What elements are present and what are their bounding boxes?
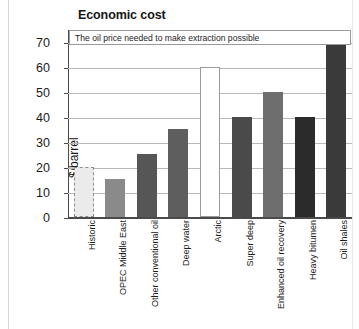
x-label-historic: Historic xyxy=(88,220,98,325)
x-label-heavy-bitumen: Heavy bitumen xyxy=(309,220,319,325)
economic-cost-chart-figure: Economic cost 010203040506070 The oil pr… xyxy=(0,0,359,329)
y-tick-70 xyxy=(64,43,68,44)
y-tick-label-0: 0 xyxy=(43,211,50,225)
bar-heavy-bitumen xyxy=(295,117,315,217)
y-tick-label-20: 20 xyxy=(36,161,50,175)
bar-historic xyxy=(74,167,94,217)
y-tick-10 xyxy=(64,193,68,194)
bar-other-conventional-oil xyxy=(137,154,157,217)
page-right-rule xyxy=(352,0,353,329)
y-tick-50 xyxy=(64,93,68,94)
x-label-opec-middle-east: OPEC Middle East xyxy=(119,220,129,325)
y-tick-label-70: 70 xyxy=(36,36,50,50)
x-label-deep-water: Deep water xyxy=(182,220,192,325)
plot-area: 010203040506070 The oil price needed to … xyxy=(68,30,352,218)
bar-super-deep xyxy=(232,117,252,217)
x-label-super-deep: Super deep xyxy=(246,220,256,325)
page-left-rule xyxy=(8,0,9,329)
y-tick-60 xyxy=(64,68,68,69)
subtitle-callout-box: The oil price needed to make extraction … xyxy=(69,30,351,45)
y-tick-label-50: 50 xyxy=(36,86,50,100)
x-axis-labels-group: HistoricOPEC Middle EastOther convention… xyxy=(68,220,352,329)
bar-oil-shales xyxy=(326,42,346,217)
chart-subtitle: The oil price needed to make extraction … xyxy=(75,32,259,44)
gridline-0 xyxy=(68,218,352,219)
y-tick-20 xyxy=(64,168,68,169)
y-tick-label-30: 30 xyxy=(36,136,50,150)
y-tick-label-40: 40 xyxy=(36,111,50,125)
bar-arctic xyxy=(200,67,220,217)
x-label-enhanced-oil-recovery: Enhanced oil recovery xyxy=(277,220,287,325)
x-label-other-conventional-oil: Other conventional oil xyxy=(151,220,161,325)
chart-title: Economic cost xyxy=(78,8,166,22)
y-tick-label-10: 10 xyxy=(36,186,50,200)
y-tick-40 xyxy=(64,118,68,119)
bar-enhanced-oil-recovery xyxy=(263,92,283,217)
bar-opec-middle-east xyxy=(105,179,125,217)
x-label-arctic: Arctic xyxy=(214,220,224,325)
x-label-oil-shales: Oil shales xyxy=(340,220,350,325)
bar-deep-water xyxy=(168,129,188,217)
y-tick-30 xyxy=(64,143,68,144)
y-tick-0 xyxy=(64,218,68,219)
y-tick-label-60: 60 xyxy=(36,61,50,75)
